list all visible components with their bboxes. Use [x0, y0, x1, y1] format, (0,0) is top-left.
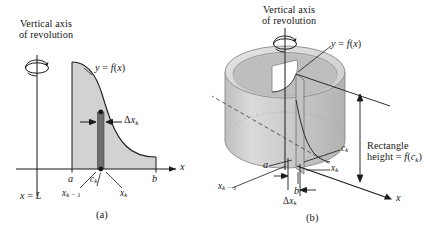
figure-shell-method: Vertical axis of revolution y = f(x) Δxk…	[0, 0, 424, 228]
panel-a-tick-label-b: b	[152, 173, 157, 184]
shell-slab-face	[296, 74, 304, 174]
panel-a-tick-label-xk: xk	[120, 188, 127, 199]
panel-b-tick-label-xk-minus-1: xk − 1	[218, 181, 237, 192]
panel-b-axis-title-line2: of revolution	[262, 15, 316, 26]
panel-b-caption: (b)	[306, 212, 319, 224]
panel-a-axis-title-line2: of revolution	[19, 29, 73, 40]
panel-a-tick-label-xk-minus-1: xk − 1	[62, 188, 81, 199]
panel-b-x-axis-label: x	[396, 192, 401, 203]
panel-b-x-axis-line	[297, 166, 388, 198]
region-under-curve	[72, 62, 156, 169]
panel-b-axis-title: Vertical axis of revolution	[247, 4, 331, 27]
panel-a-axis-title-line1: Vertical axis	[20, 18, 72, 29]
panel-b-tick-label-xk: xk	[331, 163, 338, 174]
panel-a-caption: (a)	[96, 209, 108, 221]
panel-b-axis-title-line1: Vertical axis	[263, 4, 315, 15]
panel-a-curve-label: y = f(x)	[95, 62, 125, 73]
panel-b-graphics	[212, 0, 424, 228]
panel-a-delta-x-label: Δxk	[124, 114, 139, 127]
panel-b-leader-xk-minus-1	[232, 166, 286, 188]
panel-a-axis-title: Vertical axis of revolution	[8, 18, 84, 41]
shell-top-point	[98, 110, 103, 115]
panel-b-tick-label-b: b	[294, 185, 299, 196]
panel-b-curve-label: y = f(x)	[331, 38, 361, 49]
panel-b-rectangle-height-label: Rectangle height = f(ck)	[367, 140, 422, 164]
panel-b-delta-x-label: Δxk	[283, 196, 296, 207]
leader-ck	[97, 173, 101, 186]
rectangle-height-measure	[357, 94, 363, 182]
panel-b-tick-label-ck: ck	[341, 143, 348, 154]
shell-rectangle	[98, 112, 105, 169]
rect-label-line1: Rectangle	[367, 140, 409, 151]
panel-b-tick-label-a: a	[263, 159, 268, 170]
panel-a-tick-label-a: a	[68, 173, 73, 184]
leader-xk	[106, 172, 122, 188]
x-axis-arrowhead	[169, 166, 176, 171]
panel-a-tick-label-ck: ck	[90, 174, 97, 185]
panel-a-x-axis-label: x	[180, 161, 185, 172]
panel-a-vline-label: x = L	[20, 190, 42, 201]
